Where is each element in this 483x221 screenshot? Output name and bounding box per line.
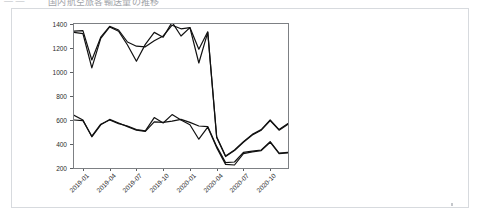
x-axis-tick-label: 2019-04 — [68, 172, 117, 221]
chart-figure: 200400600800100012001400 2019-012019-042… — [26, 13, 301, 208]
x-axis-tick-label: 2020-01 — [148, 172, 197, 221]
x-axis-tick-label: 2020-07 — [202, 172, 251, 221]
header-leading-marks: — — — [4, 0, 25, 6]
x-axis-tick-label: 2019-07 — [95, 172, 144, 221]
document-card: 200400600800100012001400 2019-012019-042… — [11, 8, 469, 208]
y-axis-tick-label: 800 — [56, 93, 67, 100]
x-axis-tick-label: 2019-10 — [121, 172, 170, 221]
line-series-group — [74, 24, 288, 168]
x-axis-tick-label: 2019-01 — [41, 172, 90, 221]
line-series-upper-series-b — [74, 24, 288, 157]
y-axis-tick-label: 1000 — [53, 69, 67, 76]
header-title-fragment: 国内航空旅客輸送量の推移 — [48, 0, 160, 7]
x-axis-tick-label: 2020-10 — [228, 172, 277, 221]
y-axis-tick-label: 1400 — [53, 21, 67, 28]
y-axis-tick-label: 1200 — [53, 45, 67, 52]
cut-off-header-strip: — — 国内航空旅客輸送量の推移 — [0, 0, 483, 7]
plot-area — [73, 23, 289, 169]
x-axis-tick-label: 2020-04 — [175, 172, 224, 221]
stray-dot-marker — [451, 203, 453, 206]
y-axis-tick-label: 600 — [56, 117, 67, 124]
y-axis-tick-label: 400 — [56, 141, 67, 148]
line-series-upper-series-a — [74, 25, 288, 156]
y-axis-tick-label: 200 — [56, 165, 67, 172]
screenshot-root: — — 国内航空旅客輸送量の推移 20040060080010001200140… — [0, 0, 483, 221]
line-series-lower-series-b — [74, 115, 288, 165]
